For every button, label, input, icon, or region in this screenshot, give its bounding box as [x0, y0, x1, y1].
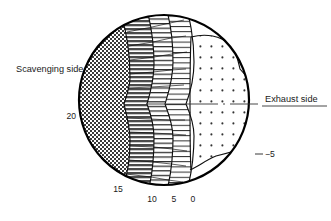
- tick-label-20: 20: [66, 111, 76, 121]
- tick-label-minus5: −5: [265, 149, 275, 159]
- tick-label-0: 0: [191, 194, 196, 204]
- scavenging-side-label: Scavenging side: [16, 64, 83, 74]
- diagram-root: Scavenging side Exhaust side 20 15 10 5 …: [0, 0, 331, 221]
- piston-crown-contour-diagram: Scavenging side Exhaust side 20 15 10 5 …: [0, 0, 331, 221]
- tick-label-5: 5: [172, 194, 177, 204]
- tick-label-10: 10: [147, 194, 157, 204]
- exhaust-side-label: Exhaust side: [265, 94, 318, 104]
- disc-contents: [79, 2, 259, 201]
- tick-label-15: 15: [113, 184, 123, 194]
